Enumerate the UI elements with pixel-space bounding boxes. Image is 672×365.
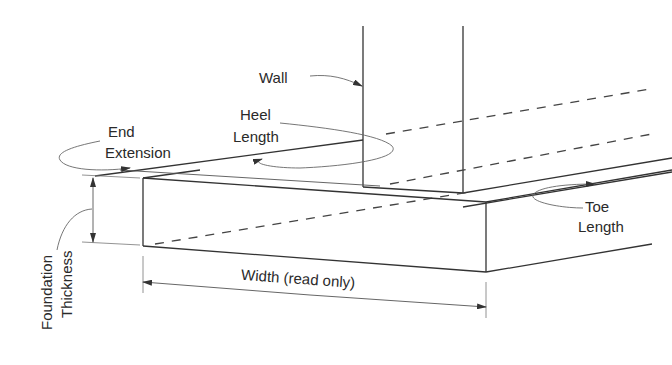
label-toe-line1: Toe [585, 198, 609, 215]
label-wall: Wall [259, 69, 288, 86]
label-toe-line2: Length [578, 218, 624, 235]
label-width: Width (read only) [241, 266, 356, 291]
label-heel-line1: Heel [240, 106, 271, 123]
label-thickness-line2: Thickness [58, 250, 75, 318]
label-thickness-line1: Foundation [38, 255, 55, 330]
label-heel-line2: Length [233, 128, 279, 145]
label-end-line1: End [108, 123, 135, 140]
thickness-dimension [57, 175, 140, 250]
label-end-line2: Extension [105, 144, 171, 161]
wall-leader-arrow [310, 75, 362, 86]
foundation-diagram: Wall Heel Length End Extension Toe Lengt… [0, 0, 672, 365]
wall-shape [363, 26, 672, 193]
